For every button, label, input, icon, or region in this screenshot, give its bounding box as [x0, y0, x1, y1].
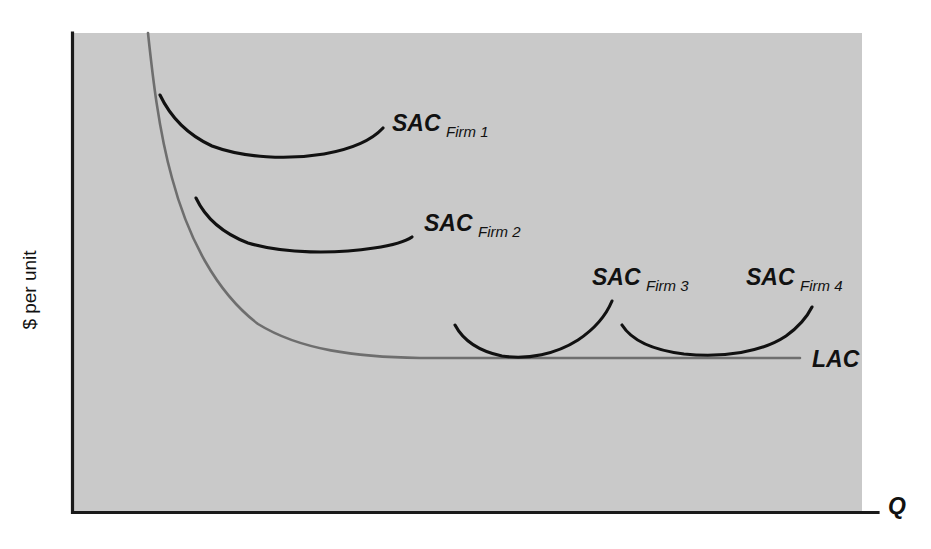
label-sac-firm-1: SAC	[392, 110, 441, 136]
label-sac-firm-2-subscript: Firm 2	[478, 223, 521, 240]
label-sac-firm-2: SAC	[424, 210, 473, 236]
label-sac-firm-4: SAC	[746, 264, 795, 290]
plot-background	[72, 33, 862, 512]
label-sac-firm-3: SAC	[592, 264, 641, 290]
label-sac-firm-1-subscript: Firm 1	[446, 123, 489, 140]
chart-canvas: SAC Firm 1 SAC Firm 2 SAC Firm 3 SAC Fir…	[0, 0, 931, 549]
x-axis-label: Q	[888, 493, 906, 519]
label-sac-firm-3-subscript: Firm 3	[646, 277, 689, 294]
label-lac: LAC	[812, 346, 860, 372]
y-axis-label: $ per unit	[19, 250, 40, 330]
cost-curve-figure: SAC Firm 1 SAC Firm 2 SAC Firm 3 SAC Fir…	[0, 0, 931, 549]
label-sac-firm-4-subscript: Firm 4	[800, 277, 843, 294]
